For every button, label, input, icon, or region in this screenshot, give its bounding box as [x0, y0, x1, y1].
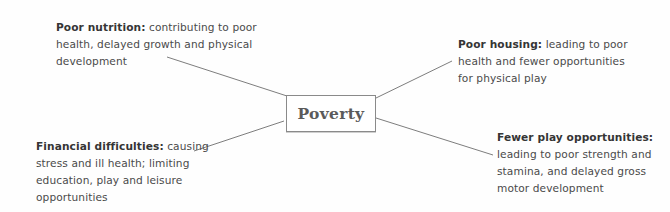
- node-poor-nutrition: Poor nutrition: contributing to poor hea…: [56, 19, 257, 70]
- node-text: causing: [167, 140, 209, 152]
- node-label: Poor housing:: [458, 38, 542, 50]
- connector-housing: [376, 61, 452, 98]
- node-text: motor development: [497, 180, 653, 197]
- node-text: for physical play: [458, 70, 628, 87]
- center-label: Poverty: [298, 104, 365, 123]
- node-label: Fewer play opportunities:: [497, 131, 653, 143]
- node-line: Fewer play opportunities:: [497, 129, 653, 146]
- node-line: Financial difficulties: causing: [36, 138, 209, 155]
- node-text: stamina, and delayed gross: [497, 163, 653, 180]
- node-poor-housing: Poor housing: leading to poor health and…: [458, 36, 628, 87]
- node-text: health, delayed growth and physical: [56, 36, 257, 53]
- node-fewer-play-opportunities: Fewer play opportunities: leading to poo…: [497, 129, 653, 197]
- center-node-poverty: Poverty: [286, 95, 376, 132]
- poverty-mind-map: Poor nutrition: contributing to poor hea…: [0, 0, 670, 212]
- node-text: health and fewer opportunities: [458, 53, 628, 70]
- node-label: Financial difficulties:: [36, 140, 164, 152]
- node-text: education, play and leisure: [36, 172, 209, 189]
- node-line: Poor housing: leading to poor: [458, 36, 628, 53]
- node-text: development: [56, 53, 257, 70]
- node-text: stress and ill health; limiting: [36, 155, 209, 172]
- node-financial-difficulties: Financial difficulties: causing stress a…: [36, 138, 209, 206]
- node-text: contributing to poor: [149, 21, 257, 33]
- node-line: Poor nutrition: contributing to poor: [56, 19, 257, 36]
- connector-play: [376, 118, 493, 155]
- node-label: Poor nutrition:: [56, 21, 146, 33]
- node-text: opportunities: [36, 189, 209, 206]
- node-text: leading to poor: [546, 38, 628, 50]
- node-text: leading to poor strength and: [497, 146, 653, 163]
